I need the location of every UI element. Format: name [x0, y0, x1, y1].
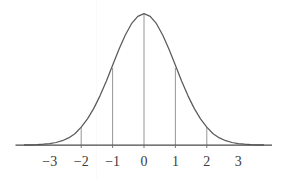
x-tick-label-zero: 0	[141, 154, 148, 169]
x-tick-label-plus-1: 1	[172, 154, 179, 169]
x-tick-label-minus-1: −1	[105, 154, 120, 169]
x-tick-label-plus-3: 3	[235, 154, 242, 169]
x-tick-label-minus-2: −2	[74, 154, 89, 169]
bell-curve-chart: −3 −2 −1 0 1 2 3	[0, 0, 281, 179]
x-axis-tick-labels: −3 −2 −1 0 1 2 3	[42, 154, 242, 169]
bell-curve-figure: −3 −2 −1 0 1 2 3	[0, 0, 281, 179]
x-tick-label-minus-3: −3	[42, 154, 57, 169]
x-tick-label-plus-2: 2	[203, 154, 210, 169]
plot-area: −3 −2 −1 0 1 2 3	[16, 14, 273, 169]
